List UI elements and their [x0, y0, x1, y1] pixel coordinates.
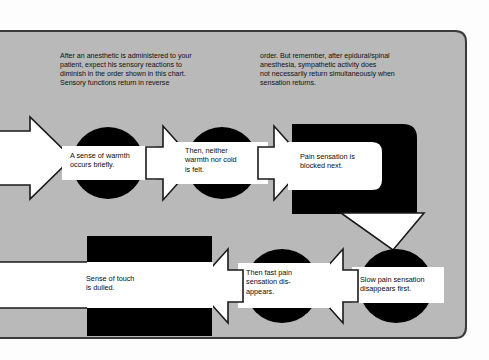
diagram-page: After an anesthetic is administered to y…: [0, 0, 489, 360]
node-pain-hook-band: [292, 188, 374, 214]
anesthesia-sensory-flowchart: After an anesthetic is administered to y…: [0, 0, 489, 360]
